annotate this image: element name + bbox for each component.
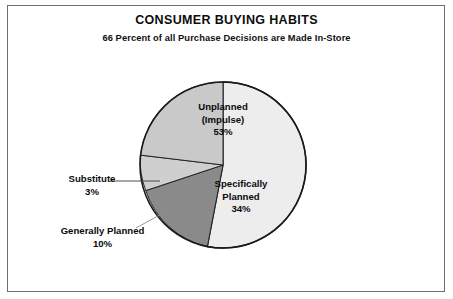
pie-label-substitute-value: 3% (42, 185, 142, 198)
pie-chart-area: Unplanned (Impulse) 53% Specifically Pla… (0, 0, 453, 299)
pie-label-generally-planned-value: 10% (30, 237, 175, 250)
pie-label-unplanned-impulse-line1: Unplanned (163, 101, 283, 114)
pie-label-specifically-planned-value: 34% (186, 203, 296, 216)
pie-label-specifically-planned-line1: Specifically (186, 178, 296, 191)
pie-label-generally-planned: Generally Planned 10% (30, 224, 175, 250)
pie-chart-svg (0, 0, 453, 299)
pie-label-substitute-line1: Substitute (42, 172, 142, 185)
pie-label-specifically-planned: Specifically Planned 34% (186, 178, 296, 216)
chart-figure: CONSUMER BUYING HABITS 66 Percent of all… (0, 0, 453, 299)
pie-label-unplanned-impulse-line2: (Impulse) (163, 114, 283, 127)
pie-label-substitute: Substitute 3% (42, 172, 142, 198)
pie-label-generally-planned-line1: Generally Planned (30, 224, 175, 237)
pie-label-unplanned-impulse: Unplanned (Impulse) 53% (163, 101, 283, 139)
pie-label-specifically-planned-line2: Planned (186, 191, 296, 204)
pie-label-unplanned-impulse-value: 53% (163, 126, 283, 139)
